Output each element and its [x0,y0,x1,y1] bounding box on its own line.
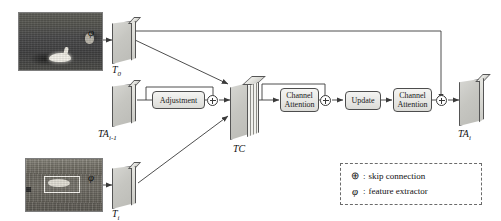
slab-face [112,84,132,127]
block-update-label: Update [351,96,374,105]
feature-map-TA-out-label: TAi [458,128,471,142]
block-update[interactable]: Update [345,91,381,110]
feature-map-T0 [112,15,138,65]
legend-label-skip-connection: skip connection [369,171,426,181]
photo-grain [26,159,102,211]
slab-face [230,83,248,140]
feature-map-TC [230,74,262,142]
block-channel-attention-1-line2: Attention [284,100,314,109]
feature-extractor-symbol-top: φ [88,26,94,38]
block-adjustment-label: Adjustment [160,96,197,105]
block-channel-attention-2-line1: Channel [399,91,426,100]
feature-map-Ti [112,160,138,210]
search-frame-thumbnail [25,158,103,212]
block-channel-attention-2-line2: Attention [397,100,427,109]
label-base: TC [233,143,245,154]
slab-face [459,79,480,126]
slab-side [131,84,136,126]
block-channel-attention-1-line1: Channel [286,91,313,100]
legend-row-skip-connection: ⊕ : skip connection [348,168,473,183]
legend-row-feature-extractor: φ : feature extractor [348,183,473,198]
feature-map-TC-label: TC [233,143,245,154]
label-sub: i [469,134,471,142]
feature-map-TA-out [459,72,487,128]
feature-map-Ti-label: Ti [112,208,120,221]
slab-side [131,166,136,208]
photo-grain [19,13,102,70]
slab-top [242,76,266,85]
skip-sum-channel-attention-1 [320,95,331,106]
skip-sum-adjustment [207,95,218,106]
feature-extractor-symbol-bottom: φ [88,171,94,183]
legend-label-feature-extractor: feature extractor [369,186,428,196]
block-adjustment[interactable]: Adjustment [152,91,205,109]
slab-face [112,21,132,64]
label-sub: 0 [118,70,122,78]
label-base: TA [458,128,469,139]
slab-face [112,166,132,209]
label-sub: i [118,214,120,221]
label-sub: i-1 [109,134,117,142]
feature-map-TA-prev-label: TAi-1 [98,128,117,142]
template-frame-thumbnail [18,12,103,71]
architecture-diagram: φ T0 TAi-1 φ Ti Adjustment [0,0,501,221]
slab-side [131,21,136,63]
plus-circle-icon: ⊕ [348,170,362,181]
phi-icon: φ [348,185,362,197]
slab-side [247,82,259,138]
block-channel-attention-2[interactable]: Channel Attention [393,88,432,112]
block-channel-attention-1[interactable]: Channel Attention [280,88,319,112]
feature-map-TA-prev [112,78,138,128]
label-base: TA [98,128,109,139]
skip-sum-final [436,95,447,106]
feature-map-T0-label: T0 [112,64,121,78]
legend-box: ⊕ : skip connection φ : feature extracto… [340,163,482,205]
slab-side [479,78,484,124]
